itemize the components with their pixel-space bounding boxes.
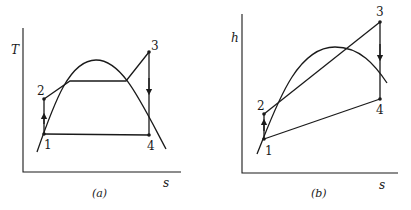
hs-caption: (b) [311,187,327,200]
hs-label-2: 2 [257,99,265,113]
ts-diagram: T s 1 2 3 4 (a) [11,28,181,200]
ts-condensing-line-4-1 [44,134,149,135]
hs-diagram: h s 1 2 3 4 (b) [231,5,398,200]
ts-label-1: 1 [44,138,52,152]
ts-x-axis-label: s [163,176,169,190]
ts-label-3: 3 [151,39,159,53]
hs-y-axis-label: h [231,31,239,45]
hs-saturation-dome [257,47,387,154]
ts-y-axis-label: T [11,43,20,57]
ts-state-point-4 [147,133,151,137]
thermodynamic-cycle-figure: T s 1 2 3 4 (a) h s [0,0,411,210]
ts-caption: (a) [92,187,107,200]
hs-label-3: 3 [376,5,384,19]
hs-state-point-4 [378,97,382,101]
hs-x-axis-label: s [379,178,385,192]
hs-condensing-line-4-1 [264,99,380,139]
ts-heating-line-2-3 [44,52,149,99]
hs-state-point-1 [262,137,266,141]
hs-label-4: 4 [376,103,384,117]
ts-state-point-1 [42,132,46,136]
hs-label-1: 1 [265,144,273,158]
hs-heating-line-2-3 [264,22,380,114]
ts-label-2: 2 [37,84,45,98]
ts-label-4: 4 [147,139,155,153]
hs-state-point-3 [378,20,382,24]
